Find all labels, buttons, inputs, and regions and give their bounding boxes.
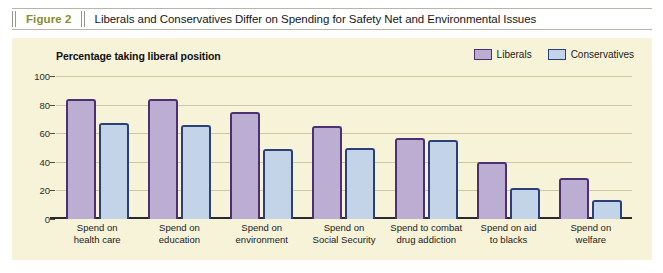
bar-group [550, 76, 632, 219]
bar-liberals[interactable] [477, 162, 507, 219]
bar-group [56, 76, 138, 219]
figure-title: Liberals and Conservatives Differ on Spe… [85, 13, 537, 25]
legend-swatch-conservatives-icon [548, 49, 566, 60]
chart-legend: Liberals Conservatives [474, 49, 634, 60]
bar-group [467, 76, 549, 219]
x-axis-labels: Spend onhealth careSpend oneducationSpen… [56, 222, 632, 245]
legend-label-conservatives: Conservatives [571, 49, 634, 60]
x-axis-label: Spend on aidto blacks [467, 222, 549, 245]
x-axis-label: Spend onenvironment [221, 222, 303, 245]
bar-liberals[interactable] [66, 99, 96, 219]
bar-conservatives[interactable] [99, 123, 129, 219]
bar-liberals[interactable] [559, 178, 589, 219]
bar-group [385, 76, 467, 219]
y-axis-tick-mark [50, 105, 55, 106]
bar-conservatives[interactable] [510, 188, 540, 219]
y-axis-tick-label: 40 [39, 156, 50, 167]
x-axis-label: Spend to combatdrug addiction [385, 222, 467, 245]
bar-liberals[interactable] [230, 112, 260, 219]
bar-liberals[interactable] [148, 99, 178, 219]
y-axis-tick-mark [50, 219, 55, 220]
bar-groups [56, 76, 632, 219]
legend-item-conservatives: Conservatives [548, 49, 634, 60]
y-axis-tick-mark [50, 76, 55, 77]
bar-liberals[interactable] [312, 126, 342, 219]
x-axis-label: Spend onwelfare [550, 222, 632, 245]
chart-subtitle: Percentage taking liberal position [56, 50, 221, 62]
x-axis-label: Spend onSocial Security [303, 222, 385, 245]
legend-label-liberals: Liberals [497, 49, 532, 60]
y-axis-tick-label: 0 [45, 214, 50, 225]
bar-group [138, 76, 220, 219]
bar-conservatives[interactable] [263, 149, 293, 219]
legend-item-liberals: Liberals [474, 49, 532, 60]
legend-swatch-liberals-icon [474, 49, 492, 60]
y-axis-tick-label: 100 [34, 71, 50, 82]
y-axis-tick-label: 20 [39, 185, 50, 196]
x-axis-label: Spend oneducation [138, 222, 220, 245]
y-axis-tick-label: 80 [39, 99, 50, 110]
bar-conservatives[interactable] [181, 125, 211, 219]
plot-area: 020406080100 [56, 76, 632, 219]
x-axis-label: Spend onhealth care [56, 222, 138, 245]
y-axis-tick-mark [50, 133, 55, 134]
y-axis-tick-mark [50, 190, 55, 191]
bar-group [221, 76, 303, 219]
figure-header: Figure 2 Liberals and Conservatives Diff… [12, 8, 652, 30]
bar-conservatives[interactable] [428, 140, 458, 219]
figure-number-label: Figure 2 [16, 13, 81, 25]
bar-liberals[interactable] [395, 138, 425, 220]
chart-panel: Percentage taking liberal position Liber… [12, 38, 652, 260]
figure-container: Figure 2 Liberals and Conservatives Diff… [0, 0, 663, 273]
bar-conservatives[interactable] [592, 200, 622, 219]
bar-conservatives[interactable] [345, 148, 375, 220]
y-axis-tick-label: 60 [39, 128, 50, 139]
bar-group [303, 76, 385, 219]
y-axis-tick-mark [50, 162, 55, 163]
